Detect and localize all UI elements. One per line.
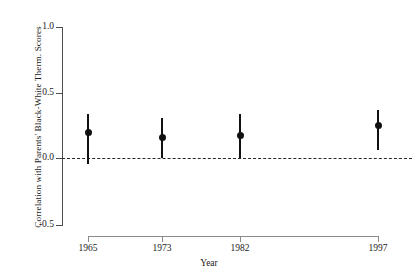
x-tick-label-1997: 1997: [348, 243, 408, 253]
y-tick-label-2: 0.5: [20, 88, 54, 98]
y-tick-label-4: -0.5: [20, 220, 54, 230]
error-bar-1997: [377, 110, 379, 150]
zero-reference-line: [62, 158, 412, 159]
y-axis-line: [62, 27, 63, 226]
y-tick-mark-4: [56, 225, 63, 226]
data-point-1965: [85, 129, 92, 136]
y-tick-mark-2: [56, 93, 63, 94]
x-tick-mark-1965: [88, 236, 89, 242]
x-tick-mark-1982: [240, 236, 241, 242]
chart-figure: Correlation with Parents' Black-White Th…: [0, 0, 418, 280]
y-tick-label-1: 1.0: [20, 22, 54, 32]
y-tick-mark-1: [56, 27, 63, 28]
x-tick-label-1982: 1982: [210, 243, 270, 253]
x-tick-mark-1997: [378, 236, 379, 242]
x-axis-line: [88, 236, 379, 237]
y-tick-label-3: 0.0: [20, 153, 54, 163]
error-bar-1965: [87, 114, 89, 164]
x-axis-label: Year: [0, 258, 418, 268]
y-tick-label-group: 1.0 0.5 0.0 -0.5: [20, 0, 54, 280]
data-point-1997: [375, 122, 382, 129]
data-point-1973: [159, 134, 166, 141]
data-point-1982: [237, 132, 244, 139]
x-tick-label-1965: 1965: [58, 243, 118, 253]
x-tick-label-1973: 1973: [132, 243, 192, 253]
x-tick-mark-1973: [162, 236, 163, 242]
